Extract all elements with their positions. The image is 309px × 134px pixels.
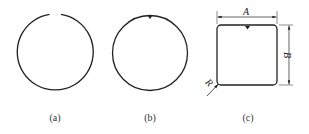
panel-c: A B R (c) <box>203 6 293 124</box>
weld-mark-icon <box>245 26 250 30</box>
radius-label: R <box>203 76 216 89</box>
figure-canvas: (a) (b) A B R (c) <box>0 0 309 134</box>
rounded-square <box>217 25 277 85</box>
closed-ring <box>113 16 188 91</box>
caption-c: (c) <box>242 112 253 124</box>
caption-b: (b) <box>144 112 156 124</box>
split-ring <box>17 14 93 90</box>
weld-mark-icon <box>147 15 152 19</box>
panel-a: (a) <box>17 14 93 124</box>
caption-a: (a) <box>49 112 60 124</box>
dimension-label-b: B <box>282 52 293 58</box>
dimension-label-a: A <box>242 6 250 17</box>
panel-b: (b) <box>113 15 188 124</box>
